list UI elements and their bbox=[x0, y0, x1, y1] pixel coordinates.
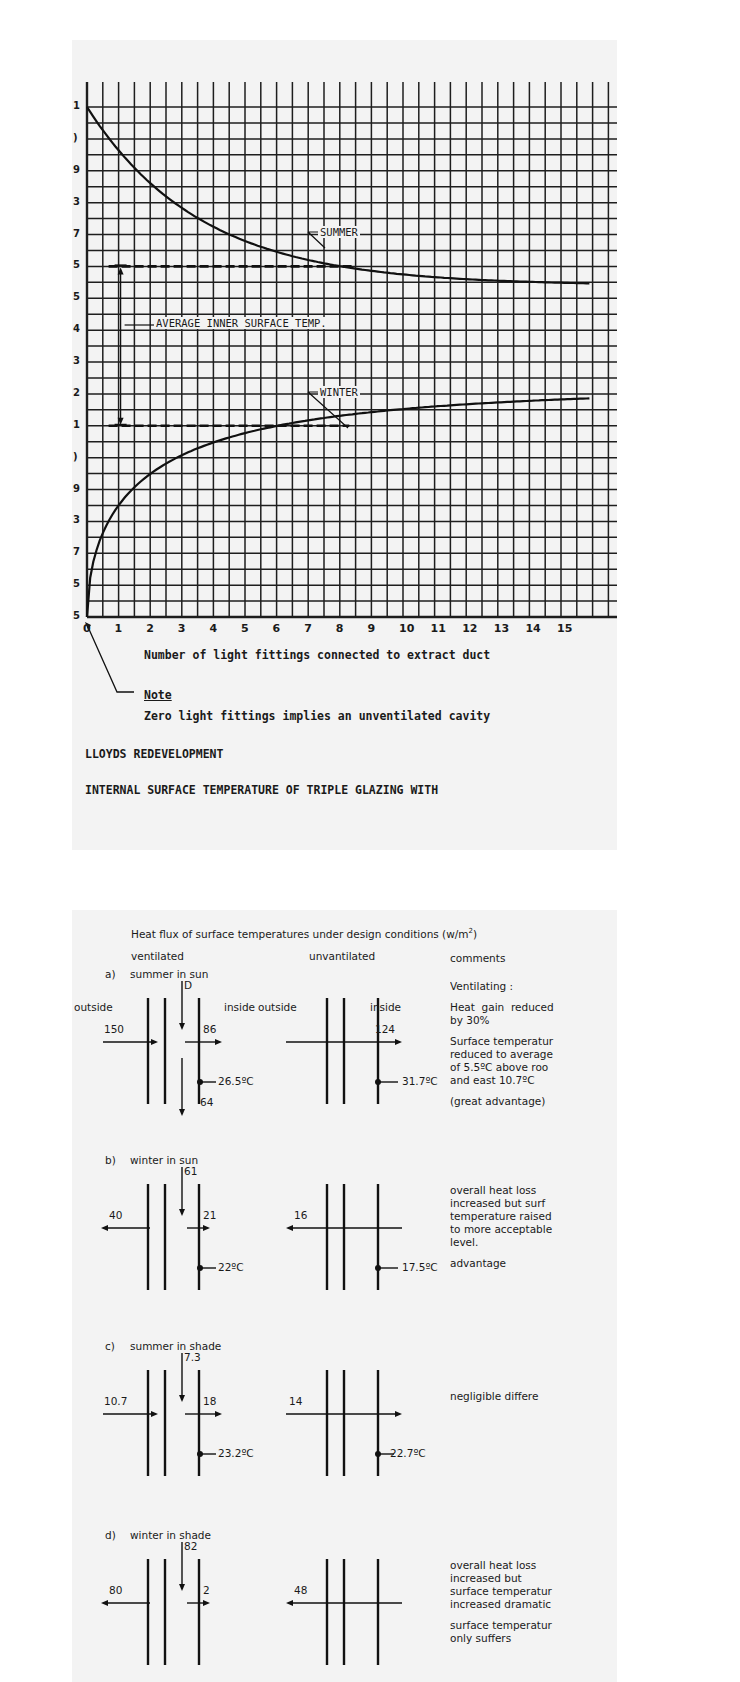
y-tick-label: 5 bbox=[73, 578, 80, 589]
comment-text: overall heat loss increased but surf tem… bbox=[450, 1184, 617, 1249]
case-label: b) bbox=[105, 1154, 116, 1166]
y-tick-label: 1 bbox=[73, 419, 80, 430]
heat-flux-page: Heat flux of surface temperatures under … bbox=[72, 910, 617, 1682]
arrow-right-icon bbox=[151, 1039, 158, 1045]
outer-flux-value: 150 bbox=[104, 1023, 124, 1035]
unventilated-surface-temp: 17.5ºC bbox=[402, 1261, 438, 1273]
x-tick-label: 12 bbox=[462, 622, 477, 635]
outer-flux-value: 40 bbox=[109, 1209, 122, 1221]
y-tick-label: 1 bbox=[73, 100, 80, 111]
comment-text: surface temperatur only suffers bbox=[450, 1619, 617, 1645]
x-tick-label: 13 bbox=[494, 622, 509, 635]
note-leader bbox=[88, 627, 134, 692]
cavity-flux-top: D bbox=[184, 979, 192, 991]
winter-label: WINTER bbox=[318, 386, 360, 398]
x-tick-label: 15 bbox=[557, 622, 572, 635]
arrow-right-icon bbox=[395, 1411, 402, 1417]
heat-flux-title: Heat flux of surface temperatures under … bbox=[131, 927, 477, 940]
arrow-left-icon bbox=[286, 1600, 293, 1606]
arrow-left-icon bbox=[286, 1225, 293, 1231]
arrow-right-icon bbox=[215, 1039, 222, 1045]
x-tick-label: 7 bbox=[304, 622, 312, 635]
x-tick-label: 10 bbox=[399, 622, 414, 635]
unvent-flux-value: 48 bbox=[294, 1584, 307, 1596]
summer-label: SUMMER bbox=[318, 226, 360, 238]
outer-flux-value: 10.7 bbox=[104, 1395, 127, 1407]
x-tick-label: 1 bbox=[115, 622, 123, 635]
arrow-right-icon bbox=[203, 1600, 210, 1606]
x-tick-label: 4 bbox=[209, 622, 217, 635]
unventilated-surface-temp: 22.7ºC bbox=[390, 1447, 426, 1459]
comment-text: Surface temperatur reduced to average of… bbox=[450, 1035, 617, 1087]
arrow-down-icon bbox=[179, 1023, 185, 1030]
inner-flux-value: 21 bbox=[203, 1209, 216, 1221]
x-tick-label: 2 bbox=[146, 622, 154, 635]
ventilated-surface-temp: 22ºC bbox=[218, 1261, 244, 1273]
x-tick-label: 8 bbox=[336, 622, 344, 635]
arrow-right-icon bbox=[203, 1225, 210, 1231]
comment-text: (great advantage) bbox=[450, 1095, 617, 1108]
inner-flux-value: 2 bbox=[203, 1584, 210, 1596]
x-tick-label: 9 bbox=[367, 622, 375, 635]
x-tick-label: 6 bbox=[273, 622, 281, 635]
ventilated-surface-temp: 26.5ºC bbox=[218, 1075, 254, 1087]
column-ventilated: ventilated bbox=[131, 950, 184, 962]
y-tick-label: 5 bbox=[73, 610, 80, 621]
y-tick-label: 2 bbox=[73, 387, 80, 398]
arrow-right-icon bbox=[151, 1411, 158, 1417]
arrow-down-icon bbox=[179, 1584, 185, 1591]
average-temp-label: AVERAGE INNER SURFACE TEMP. bbox=[154, 317, 329, 329]
column-unventilated: unvantilated bbox=[309, 950, 375, 962]
case-label: a) bbox=[105, 968, 116, 980]
cavity-flux-top: 7.3 bbox=[184, 1351, 201, 1363]
comment-text: Heat gain reduced by 30% bbox=[450, 1001, 617, 1027]
case-name: winter in shade bbox=[130, 1529, 211, 1541]
inner-flux-value: 86 bbox=[203, 1023, 216, 1035]
note-heading: Note bbox=[144, 688, 172, 702]
cavity-flux-top: 82 bbox=[184, 1540, 197, 1552]
unvent-flux-value: 14 bbox=[289, 1395, 302, 1407]
column-comments: comments bbox=[450, 952, 505, 964]
y-tick-label: 3 bbox=[73, 196, 80, 207]
project-name: LLOYDS REDEVELOPMENT bbox=[85, 747, 223, 761]
temperature-chart bbox=[72, 40, 617, 850]
comment-text: advantage bbox=[450, 1257, 617, 1270]
x-tick-label: 3 bbox=[178, 622, 186, 635]
figure-title: INTERNAL SURFACE TEMPERATURE OF TRIPLE G… bbox=[85, 783, 438, 797]
outside-label: outside bbox=[258, 1001, 297, 1013]
unvent-flux-value: 16 bbox=[294, 1209, 307, 1221]
inside-label: inside bbox=[370, 1001, 401, 1013]
y-tick-label: 9 bbox=[73, 483, 80, 494]
y-tick-label: 3 bbox=[73, 514, 80, 525]
y-tick-label: ) bbox=[73, 132, 78, 143]
x-tick-label: 5 bbox=[241, 622, 249, 635]
case-label: c) bbox=[105, 1340, 115, 1352]
arrow-down-icon bbox=[179, 1109, 185, 1116]
y-tick-label: 3 bbox=[73, 355, 80, 366]
y-tick-label: 5 bbox=[73, 259, 80, 270]
cavity-flux-top: 61 bbox=[184, 1165, 197, 1177]
x-axis-label: Number of light fittings connected to ex… bbox=[144, 648, 490, 662]
outside-label: outside bbox=[74, 1001, 113, 1013]
y-tick-label: 5 bbox=[73, 291, 80, 302]
y-tick-label: 7 bbox=[73, 546, 80, 557]
note-text: Zero light fittings implies an unventila… bbox=[144, 709, 490, 723]
arrow-left-icon bbox=[101, 1600, 108, 1606]
outer-flux-value: 80 bbox=[109, 1584, 122, 1596]
unvent-flux-value: 124 bbox=[375, 1023, 395, 1035]
comment-text: overall heat loss increased but surface … bbox=[450, 1559, 617, 1611]
inside-label: inside bbox=[224, 1001, 255, 1013]
y-tick-label: 7 bbox=[73, 228, 80, 239]
chart-page: SUMMER WINTER AVERAGE INNER SURFACE TEMP… bbox=[72, 40, 617, 850]
y-tick-label: ) bbox=[73, 451, 78, 462]
arrow-right-icon bbox=[395, 1039, 402, 1045]
ventilated-surface-temp: 23.2ºC bbox=[218, 1447, 254, 1459]
case-name: summer in shade bbox=[130, 1340, 221, 1352]
arrow-down-icon bbox=[179, 1209, 185, 1216]
x-tick-label: 0 bbox=[83, 622, 91, 635]
case-name: summer in sun bbox=[130, 968, 208, 980]
comment-text: Ventilating : bbox=[450, 980, 617, 993]
x-tick-label: 14 bbox=[525, 622, 540, 635]
inner-flux-value: 18 bbox=[203, 1395, 216, 1407]
comment-text: negligible differe bbox=[450, 1390, 617, 1403]
